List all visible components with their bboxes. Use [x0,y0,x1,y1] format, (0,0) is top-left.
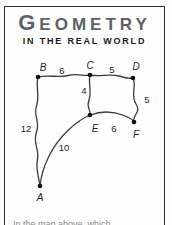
segment-B-A [35,77,40,186]
length-BC: 6 [59,65,64,76]
worksheet-page: GEOMETRY IN THE REAL WORLD B C D E F A 6… [0,0,172,225]
point-F-dot [132,120,137,125]
point-F-label: F [133,129,140,140]
point-D-dot [131,76,136,81]
length-EF: 6 [111,123,116,134]
point-D-label: D [132,61,139,72]
length-AB: 12 [21,123,32,134]
segment-C-D [90,75,133,78]
point-B-dot [36,75,41,80]
segment-C-E [88,75,90,115]
length-CE: 4 [81,85,86,96]
length-CD: 5 [109,64,114,75]
point-A-label: A [36,192,44,203]
question-text-clipped: In the map above, which [13,219,163,225]
geometry-map-figure: B C D E F A 6 5 4 5 6 12 10 [0,0,172,225]
segment-D-F [133,78,138,122]
point-E-dot [88,113,93,118]
point-C-dot [88,73,93,78]
point-E-label: E [92,123,99,134]
length-DF: 5 [144,94,149,105]
segment-E-F [90,112,134,122]
point-C-label: C [86,60,94,71]
point-A-dot [38,184,43,189]
length-AE: 10 [59,142,70,153]
point-B-label: B [40,62,47,73]
